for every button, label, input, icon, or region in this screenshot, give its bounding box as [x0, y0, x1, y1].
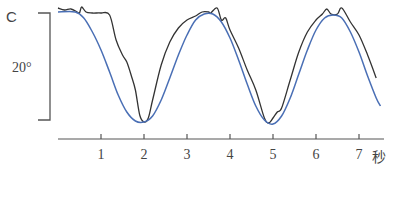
chart-canvas — [0, 0, 394, 207]
x-tick-label: 6 — [313, 147, 320, 163]
x-tick-label: 7 — [356, 147, 363, 163]
model-curve — [58, 12, 381, 125]
scale-bar — [38, 13, 50, 120]
measured-curve — [58, 7, 376, 123]
x-tick-label: 3 — [184, 147, 191, 163]
scale-bar-label: 20° — [12, 60, 32, 76]
x-tick-label: 2 — [141, 147, 148, 163]
x-tick-label: 1 — [98, 147, 105, 163]
x-axis — [58, 134, 384, 139]
x-tick-label: 4 — [227, 147, 234, 163]
y-unit-label: C — [6, 8, 17, 25]
x-tick-label: 5 — [270, 147, 277, 163]
x-unit-label: 秒 — [372, 146, 386, 166]
